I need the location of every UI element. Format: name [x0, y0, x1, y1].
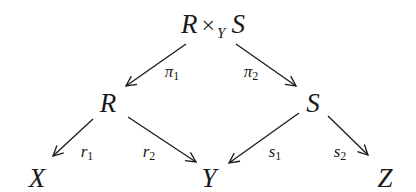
label-r1-base: r — [81, 142, 88, 161]
label-s1-base: s — [269, 142, 276, 161]
label-r2-sub: 2 — [149, 149, 155, 163]
node-X: X — [29, 165, 46, 192]
node-Z: Z — [377, 165, 392, 192]
node-R: R — [100, 90, 117, 117]
label-s2: s2 — [334, 143, 347, 162]
node-Y: Y — [201, 165, 216, 192]
times-symbol: × — [202, 12, 216, 38]
node-S: S — [306, 90, 320, 117]
node-fiber-product-right: S — [231, 9, 245, 39]
label-pi1-sub: 1 — [173, 69, 179, 83]
label-pi2-sub: 2 — [252, 69, 258, 83]
arrow-s1 — [229, 113, 299, 163]
label-pi2-base: π — [244, 62, 253, 81]
label-s2-sub: 2 — [340, 149, 346, 163]
fiber-product-diagram: R×YS R S X Y Z π1 π2 r1 r2 s1 s2 — [0, 0, 416, 191]
node-fiber-product: R×YS — [181, 11, 245, 41]
node-fiber-product-subscript: Y — [217, 25, 225, 41]
label-pi1-base: π — [165, 62, 174, 81]
label-s1: s1 — [269, 143, 282, 162]
node-fiber-product-left: R — [181, 9, 198, 39]
label-pi1: π1 — [165, 63, 180, 82]
label-r2: r2 — [143, 143, 156, 162]
label-r2-base: r — [143, 142, 150, 161]
label-r1-sub: 1 — [87, 149, 93, 163]
arrow-r2 — [128, 117, 196, 162]
label-pi2: π2 — [244, 63, 259, 82]
label-r1: r1 — [81, 143, 94, 162]
label-s2-base: s — [334, 142, 341, 161]
label-s1-sub: 1 — [275, 149, 281, 163]
